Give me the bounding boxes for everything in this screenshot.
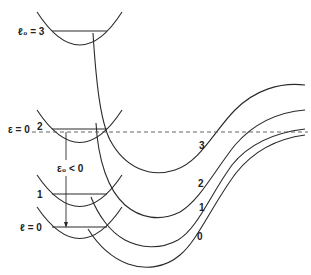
label-curve-0: 0 [197, 232, 203, 242]
label-curve-2: 2 [198, 179, 204, 189]
parabola-l-0 [37, 207, 122, 239]
curve-3 [93, 33, 305, 173]
parabola-level-1 [37, 175, 122, 207]
label-curve-3: 3 [199, 141, 205, 151]
label-epsilon0-lt-0: ε₀ < 0 [57, 164, 83, 174]
label-curve-1: 1 [199, 203, 205, 213]
potential-curves-diagram [0, 0, 311, 275]
label-l0-3: ℓ₀ = 3 [18, 27, 44, 37]
parabola-l0-3 [37, 12, 122, 45]
label-l-0: ℓ = 0 [20, 223, 42, 233]
label-epsilon-0: ε = 0 [8, 125, 30, 135]
label-level-2: 2 [37, 122, 43, 132]
label-level-1: 1 [37, 190, 43, 200]
